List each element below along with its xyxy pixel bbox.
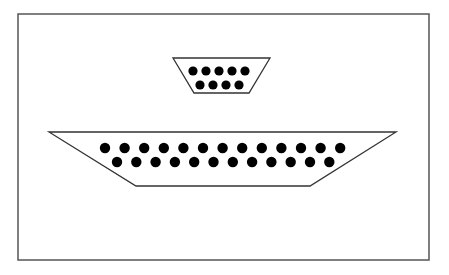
pin-icon <box>150 157 160 167</box>
connector-diagram <box>0 0 449 275</box>
pin-icon <box>178 143 188 153</box>
pin-icon <box>214 66 223 75</box>
pin-icon <box>234 80 243 89</box>
pin-icon <box>189 157 199 167</box>
pin-icon <box>237 143 247 153</box>
pin-icon <box>188 66 197 75</box>
pin-icon <box>208 80 217 89</box>
pin-icon <box>198 143 208 153</box>
pin-icon <box>315 143 325 153</box>
pin-icon <box>217 143 227 153</box>
pin-icon <box>276 143 286 153</box>
pin-icon <box>228 157 238 167</box>
pin-icon <box>240 66 249 75</box>
pin-icon <box>324 157 334 167</box>
pin-icon <box>305 157 315 167</box>
pin-icon <box>296 143 306 153</box>
pin-icon <box>227 66 236 75</box>
pin-icon <box>201 66 210 75</box>
pin-icon <box>195 80 204 89</box>
pin-icon <box>286 157 296 167</box>
pin-icon <box>100 143 110 153</box>
pin-icon <box>112 157 122 167</box>
pin-icon <box>335 143 345 153</box>
pin-icon <box>139 143 149 153</box>
db25-connector <box>49 132 396 186</box>
pin-icon <box>257 143 267 153</box>
de9-connector-outline <box>173 58 270 93</box>
pin-icon <box>131 157 141 167</box>
pin-icon <box>221 80 230 89</box>
de9-connector <box>173 58 270 93</box>
pin-icon <box>247 157 257 167</box>
pin-icon <box>159 143 169 153</box>
pin-icon <box>170 157 180 167</box>
pin-icon <box>119 143 129 153</box>
pin-icon <box>266 157 276 167</box>
pin-icon <box>208 157 218 167</box>
db25-connector-outline <box>49 132 396 186</box>
